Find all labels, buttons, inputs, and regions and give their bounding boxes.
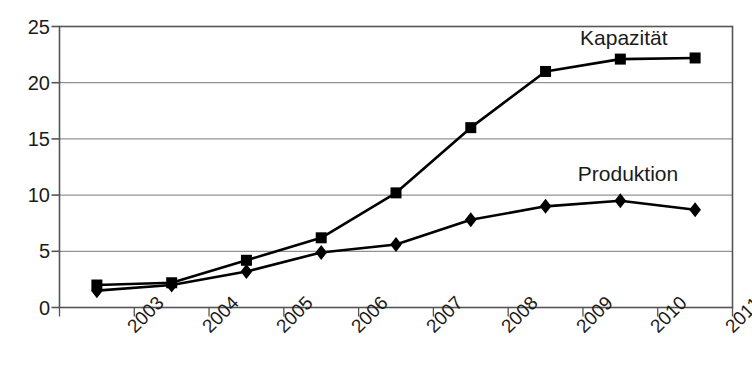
x-tick-label: 2005 xyxy=(272,322,288,338)
series-annotation-label: Produktion xyxy=(578,162,678,186)
x-tick-label: 2003 xyxy=(123,322,139,338)
series-annotation-label: Kapazität xyxy=(580,26,668,50)
x-tick-label: 2006 xyxy=(347,322,363,338)
chart-container: 0510152025 20032004200520062007200820092… xyxy=(0,0,752,391)
x-tick-label: 2008 xyxy=(497,322,513,338)
x-axis-tick-labels: 200320042005200620072008200920102011 xyxy=(0,0,752,391)
x-tick-label: 2007 xyxy=(422,322,438,338)
x-tick-label: 2009 xyxy=(572,322,588,338)
x-tick-label: 2004 xyxy=(198,322,214,338)
x-tick-label: 2010 xyxy=(646,322,662,338)
x-tick-label: 2011 xyxy=(721,322,737,338)
